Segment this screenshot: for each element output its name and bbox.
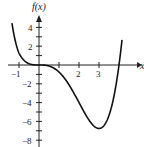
x-axis-label: x (139, 60, 144, 71)
x-tick-label: 3 (96, 69, 101, 79)
y-tick-label: −6 (22, 117, 32, 127)
y-tick-label: −2 (22, 79, 32, 89)
y-tick-label: −8 (22, 136, 32, 146)
y-axis-label: f(x) (32, 1, 47, 13)
function-graph: f(x) x −1 2 3 4 2 −2 −4 −6 −8 (0, 0, 144, 147)
y-tick-label: 2 (28, 42, 33, 52)
y-axis-arrow-icon (36, 15, 42, 22)
y-tick-label: 4 (28, 23, 33, 33)
y-tick-label: −4 (22, 98, 32, 108)
function-curve (12, 23, 122, 128)
x-tick-label: −1 (11, 69, 21, 79)
x-tick-label: 2 (76, 69, 81, 79)
